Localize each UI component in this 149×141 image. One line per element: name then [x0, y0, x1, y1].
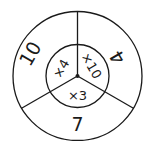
inner-label-bottom: ×3	[68, 88, 87, 103]
outer-label-upper-right: 4	[105, 47, 130, 68]
center-dot	[76, 74, 80, 78]
inner-label-left: ×4	[50, 57, 73, 81]
outer-label-bottom: 7	[71, 113, 83, 135]
target-diagram: 10 4 7 ×4 ×10 ×3	[0, 0, 149, 141]
outer-label-upper-left: 10	[14, 38, 45, 70]
